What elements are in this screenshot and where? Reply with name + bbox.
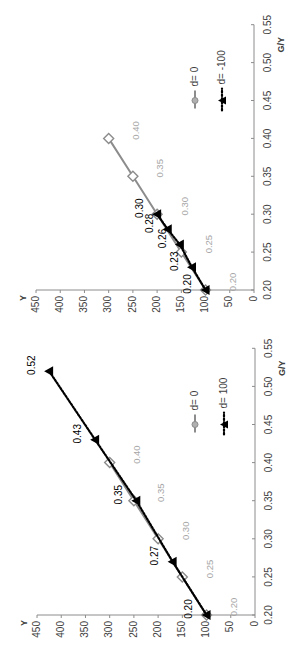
y-tick-label: 150 — [175, 296, 186, 313]
data-label-d: 0.52 — [26, 355, 37, 375]
triangle-marker — [168, 557, 177, 567]
y-axis-title: Y — [18, 295, 28, 301]
y-tick-label: 350 — [79, 621, 90, 638]
data-label-d: 0.27 — [149, 545, 160, 565]
gy-tick-label: 0.25 — [262, 242, 273, 262]
gy-tick-label: 0.35 — [262, 166, 273, 186]
y-tick-label: 50 — [224, 621, 235, 633]
y-axis-title: Y — [19, 620, 29, 626]
gy-tick-label: 0.40 — [262, 128, 273, 148]
data-label-d: 0.23 — [169, 251, 180, 271]
data-label-d0: 0.40 — [130, 121, 141, 140]
y-tick-label: 200 — [151, 296, 162, 313]
series-line-dotted — [49, 371, 206, 615]
gy-tick-label: 0.20 — [263, 605, 274, 625]
gy-axis-title: G/Y — [276, 37, 286, 53]
diamond-marker — [104, 133, 114, 143]
gy-tick-label: 0.50 — [262, 52, 273, 72]
data-label-d: 0.20 — [182, 274, 193, 294]
y-tick-label: 450 — [31, 621, 42, 638]
y-tick-label: 150 — [176, 621, 187, 638]
data-label-d: 0.20 — [183, 599, 194, 619]
y-tick-label: 350 — [78, 296, 89, 313]
gy-tick-label: 0.45 — [262, 90, 273, 110]
y-tick-label: 0 — [249, 621, 260, 627]
legend-marker-d0 — [192, 422, 198, 428]
gy-tick-label: 0.30 — [262, 204, 273, 224]
y-tick-label: 250 — [128, 621, 139, 638]
gy-tick-label: 0.35 — [263, 491, 274, 511]
y-tick-label: 100 — [199, 296, 210, 313]
data-label-d0: 0.25 — [203, 235, 214, 254]
y-tick-label: 400 — [55, 621, 66, 638]
y-tick-label: 250 — [127, 296, 138, 313]
gy-tick-label: 0.40 — [263, 452, 274, 472]
figure: 050100150200250300350400450Y0.200.250.30… — [0, 0, 302, 665]
y-tick-label: 300 — [103, 621, 114, 638]
data-label-d0: 0.30 — [180, 522, 191, 541]
legend-label-d: d= 100 — [218, 377, 229, 408]
chart-bottom-d-plus-100: 050100150200250300350400450Y0.200.250.30… — [19, 338, 287, 638]
y-tick-label: 100 — [200, 621, 211, 638]
data-label-d: 0.43 — [72, 424, 83, 444]
gy-tick-label: 0.30 — [263, 529, 274, 549]
gy-tick-label: 0.20 — [262, 280, 273, 300]
data-label-d: 0.26 — [157, 228, 168, 248]
data-label-d0: 0.25 — [204, 560, 215, 579]
y-tick-label: 450 — [30, 296, 41, 313]
data-label-d0: 0.30 — [179, 197, 190, 216]
diamond-marker — [128, 171, 138, 181]
chart-top-d-minus-100: 050100150200250300350400450Y0.200.250.30… — [18, 15, 286, 313]
legend-label-d: d= -100 — [216, 50, 227, 85]
y-tick-label: 200 — [152, 621, 163, 638]
legend-marker-d0 — [192, 98, 198, 104]
data-label-d0: 0.35 — [154, 159, 165, 178]
y-tick-label: 300 — [102, 296, 113, 313]
legend-label-d0: d= 0 — [189, 66, 200, 86]
gy-tick-label: 0.45 — [263, 414, 274, 434]
y-tick-label: 0 — [248, 296, 259, 302]
data-label-d0: 0.20 — [227, 273, 238, 292]
data-label-d: 0.30 — [134, 198, 145, 218]
data-label-d0: 0.40 — [131, 445, 142, 464]
gy-tick-label: 0.25 — [263, 567, 274, 587]
gy-tick-label: 0.55 — [263, 338, 274, 358]
gy-axis-title: G/Y — [277, 361, 287, 377]
gy-tick-label: 0.55 — [262, 15, 273, 35]
triangle-marker — [44, 366, 53, 376]
data-label-d0: 0.35 — [155, 483, 166, 502]
legend-label-d0: d= 0 — [189, 390, 200, 410]
data-label-d: 0.28 — [144, 213, 155, 233]
data-label-d0: 0.20 — [228, 598, 239, 617]
y-tick-label: 400 — [54, 296, 65, 313]
gy-tick-label: 0.50 — [263, 376, 274, 396]
y-tick-label: 50 — [223, 296, 234, 308]
data-label-d: 0.35 — [113, 485, 124, 505]
